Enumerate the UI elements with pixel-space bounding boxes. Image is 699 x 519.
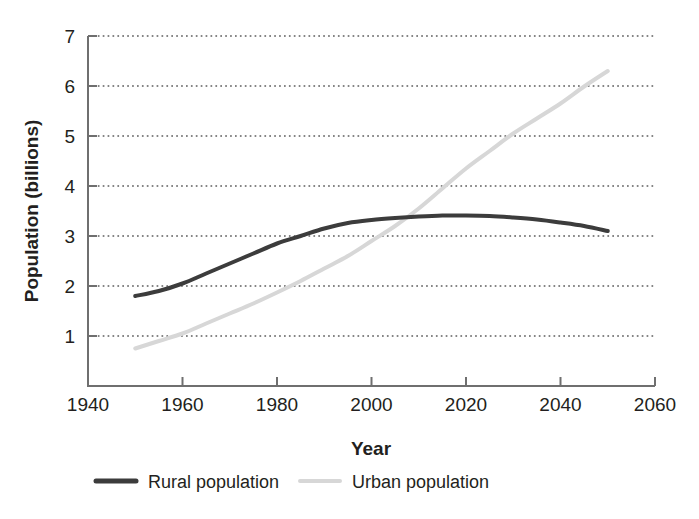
x-tick-label-1960: 1960 (161, 394, 203, 415)
y-axis-title: Population (billions) (21, 120, 42, 303)
y-tick-label-4: 4 (64, 176, 75, 197)
y-tick-label-5: 5 (64, 126, 75, 147)
y-tick-label-6: 6 (64, 76, 75, 97)
y-tick-label-3: 3 (64, 226, 75, 247)
population-line-chart-figure: 1940196019802000202020402060 1234567 Yea… (0, 0, 699, 519)
chart-canvas: 1940196019802000202020402060 1234567 Yea… (0, 0, 699, 519)
y-tick-label-1: 1 (64, 326, 75, 347)
x-tick-label-1980: 1980 (256, 394, 298, 415)
x-tick-label-2060: 2060 (634, 394, 676, 415)
x-tick-label-1940: 1940 (67, 394, 109, 415)
x-tick-label-2020: 2020 (445, 394, 487, 415)
y-tick-label-7: 7 (64, 26, 75, 47)
x-tick-label-2000: 2000 (350, 394, 392, 415)
y-tick-label-2: 2 (64, 276, 75, 297)
legend-label-urban: Urban population (352, 472, 489, 492)
x-tick-label-2040: 2040 (539, 394, 581, 415)
legend-label-rural: Rural population (148, 472, 279, 492)
x-axis-title: Year (351, 438, 392, 459)
